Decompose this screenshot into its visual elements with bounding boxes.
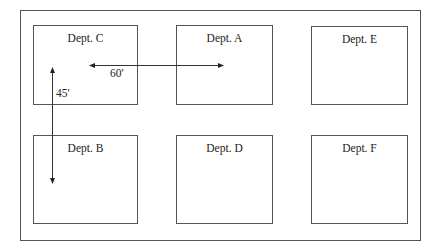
layout-diagram: Dept. C Dept. A Dept. E Dept. B Dept. D …: [0, 0, 440, 250]
arrowhead-right-icon: [218, 63, 224, 68]
arrowhead-down-icon: [50, 178, 55, 184]
horizontal-dimension-label: 60': [110, 67, 124, 79]
vertical-dimension-label: 45': [56, 87, 70, 99]
arrowhead-up-icon: [50, 67, 55, 73]
dimension-arrows: 60' 45': [0, 0, 440, 250]
arrowhead-left-icon: [89, 63, 95, 68]
vertical-dimension-arrow: [50, 67, 55, 184]
